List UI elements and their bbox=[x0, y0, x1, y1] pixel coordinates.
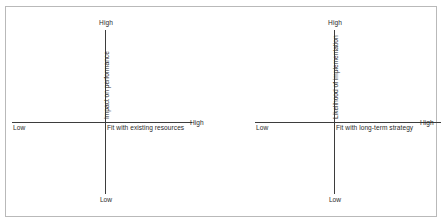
y-axis-high-label: High bbox=[99, 19, 113, 27]
figure-canvas: High Low Low High Fit with existing reso… bbox=[0, 0, 443, 224]
quadrant-matrix-likelihood-vs-strategy: High Low Low High Fit with long-term str… bbox=[221, 0, 442, 224]
x-axis-high-label: High bbox=[420, 119, 434, 127]
y-axis-title: Impact on performance bbox=[103, 51, 111, 119]
x-axis-high-label: High bbox=[190, 119, 204, 127]
y-axis-title: Likelihood of implementation bbox=[332, 35, 340, 119]
quadrant-matrix-impact-vs-resources: High Low Low High Fit with existing reso… bbox=[0, 0, 221, 224]
x-axis-title: Fit with existing resources bbox=[107, 124, 184, 132]
x-axis-low-label: Low bbox=[256, 124, 268, 132]
horizontal-axis-line bbox=[12, 122, 192, 123]
y-axis-low-label: Low bbox=[100, 196, 112, 204]
y-axis-low-label: Low bbox=[329, 196, 341, 204]
y-axis-high-label: High bbox=[328, 19, 342, 27]
horizontal-axis-line bbox=[255, 122, 441, 123]
x-axis-title: Fit with long-term strategy bbox=[336, 124, 413, 132]
x-axis-low-label: Low bbox=[13, 124, 25, 132]
